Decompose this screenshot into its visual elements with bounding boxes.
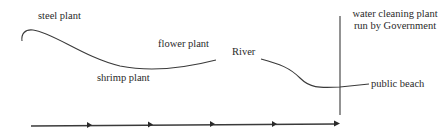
label-flower-plant: flower plant (158, 38, 209, 50)
arrowhead-icon (87, 122, 92, 128)
arrowhead-icon (148, 122, 153, 128)
river-curve-downstream (261, 59, 369, 87)
label-water-cleaning-plant: water cleaning plant run by Government (350, 8, 440, 32)
river-pollution-diagram: steel plant flower plant shrimp plant Ri… (0, 0, 446, 138)
arrowhead-icon (272, 121, 277, 127)
arrowhead-icon (210, 121, 215, 127)
label-shrimp-plant: shrimp plant (97, 72, 150, 84)
label-steel-plant: steel plant (38, 10, 81, 22)
label-public-beach: public beach (371, 78, 424, 90)
arrowhead-icon (334, 121, 340, 127)
label-river: River (232, 46, 255, 58)
flow-direction-line (31, 124, 336, 126)
